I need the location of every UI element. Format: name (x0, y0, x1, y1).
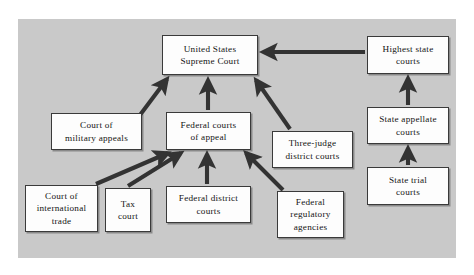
node-label-court-of-international-trade: Court of international trade (37, 190, 87, 226)
node-label-federal-courts-of-appeal: Federal courts of appeal (181, 119, 237, 143)
node-label-three-judge-district-courts: Three-judge district courts (285, 137, 339, 161)
node-label-supreme-court: United States Supreme Court (180, 43, 239, 67)
node-federal-district-courts[interactable]: Federal district courts (166, 186, 251, 223)
node-state-appellate-courts[interactable]: State appellate courts (367, 107, 449, 144)
node-label-court-of-military-appeals: Court of military appeals (65, 119, 128, 143)
node-label-federal-regulatory-agencies: Federal regulatory agencies (290, 196, 330, 232)
node-court-of-international-trade[interactable]: Court of international trade (25, 185, 98, 232)
arrow-three-judge-to-supreme (256, 80, 290, 129)
node-federal-courts-of-appeal[interactable]: Federal courts of appeal (166, 112, 251, 150)
node-highest-state-courts[interactable]: Highest state courts (367, 36, 449, 74)
arrow-military-appeals-to-supreme (140, 79, 167, 115)
node-federal-regulatory-agencies[interactable]: Federal regulatory agencies (277, 191, 344, 238)
node-three-judge-district-courts[interactable]: Three-judge district courts (272, 131, 353, 168)
node-label-highest-state-courts: Highest state courts (383, 43, 434, 67)
node-label-federal-district-courts: Federal district courts (179, 192, 238, 216)
node-label-tax-court: Tax court (118, 198, 138, 222)
node-label-state-trial-courts: State trial courts (389, 174, 427, 198)
diagram-canvas: United States Supreme Court Highest stat… (18, 19, 456, 258)
node-court-of-military-appeals[interactable]: Court of military appeals (51, 113, 142, 150)
node-label-state-appellate-courts: State appellate courts (379, 113, 437, 137)
court-system-diagram: United States Supreme Court Highest stat… (0, 0, 474, 275)
node-tax-court[interactable]: Tax court (105, 188, 151, 232)
node-supreme-court[interactable]: United States Supreme Court (162, 35, 258, 75)
node-state-trial-courts[interactable]: State trial courts (367, 167, 449, 205)
